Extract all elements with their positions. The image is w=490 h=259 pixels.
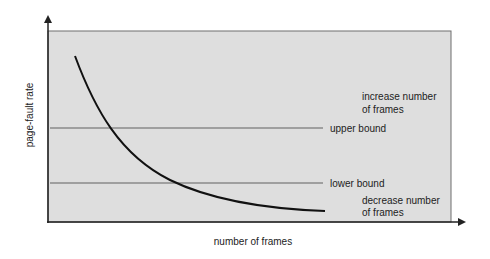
upper-bound-label: upper bound <box>330 123 386 134</box>
increase-frames-label-line1: increase number <box>362 91 437 102</box>
decrease-frames-label-line1: decrease number <box>362 195 440 206</box>
lower-bound-label: lower bound <box>330 178 384 189</box>
decrease-frames-label-line2: of frames <box>362 207 404 218</box>
y-axis-label: page-fault rate <box>24 82 35 147</box>
page-fault-frequency-diagram: upper bound lower bound increase number … <box>0 0 490 259</box>
increase-frames-label-line2: of frames <box>362 104 404 115</box>
x-axis-label: number of frames <box>214 236 292 247</box>
